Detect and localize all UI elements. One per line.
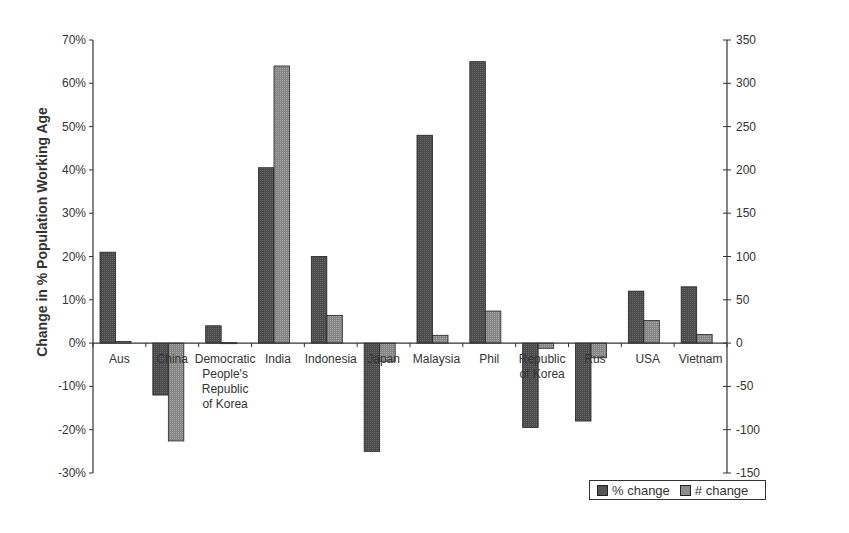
legend-item-pct: % change bbox=[597, 483, 670, 498]
category-label: of Korea bbox=[202, 397, 248, 411]
bar-pct-change bbox=[417, 135, 433, 343]
bar-pct-change bbox=[206, 326, 222, 343]
category-label: Republic bbox=[519, 352, 566, 366]
legend-swatch-pct bbox=[597, 485, 608, 496]
right-tick-label: -100 bbox=[736, 423, 760, 437]
right-tick-label: 200 bbox=[736, 163, 756, 177]
category-label: Republic bbox=[202, 382, 249, 396]
left-tick-label: 50% bbox=[62, 120, 86, 134]
category-label: People's bbox=[202, 367, 248, 381]
category-label: Democratic bbox=[195, 352, 256, 366]
legend-label-num: # change bbox=[695, 483, 749, 498]
left-tick-label: 20% bbox=[62, 250, 86, 264]
bar-num-change bbox=[697, 334, 713, 343]
category-label: Japan bbox=[367, 352, 400, 366]
y-axis-title: Change in % Population Working Age bbox=[34, 107, 50, 357]
right-tick-label: 0 bbox=[736, 336, 743, 350]
bar-chart: 70%60%50%40%30%20%10%0%-10%-20%-30% 3503… bbox=[0, 0, 849, 533]
category-label: Malaysia bbox=[413, 352, 461, 366]
right-tick-label: 250 bbox=[736, 120, 756, 134]
left-tick-label: 30% bbox=[62, 206, 86, 220]
left-y-axis: 70%60%50%40%30%20%10%0%-10%-20%-30% bbox=[58, 33, 93, 480]
category-label: of Korea bbox=[519, 367, 565, 381]
legend-label-pct: % change bbox=[612, 483, 670, 498]
left-tick-label: -10% bbox=[58, 379, 86, 393]
bar-pct-change bbox=[470, 62, 486, 343]
category-label: Rus bbox=[584, 352, 605, 366]
right-tick-label: 150 bbox=[736, 206, 756, 220]
bar-pct-change bbox=[100, 252, 116, 343]
bar-pct-change bbox=[311, 257, 327, 344]
bar-num-change bbox=[644, 321, 660, 344]
right-tick-label: 350 bbox=[736, 33, 756, 47]
legend: % change # change bbox=[589, 480, 766, 500]
bars bbox=[100, 62, 712, 452]
left-tick-label: 70% bbox=[62, 33, 86, 47]
left-tick-label: 40% bbox=[62, 163, 86, 177]
left-tick-label: -30% bbox=[58, 466, 86, 480]
x-axis: AusChinaDemocraticPeople'sRepublicof Kor… bbox=[93, 343, 727, 411]
left-tick-label: 10% bbox=[62, 293, 86, 307]
left-tick-label: -20% bbox=[58, 423, 86, 437]
bar-num-change bbox=[327, 315, 343, 343]
category-label: Indonesia bbox=[305, 352, 357, 366]
legend-item-num: # change bbox=[680, 483, 749, 498]
bar-num-change bbox=[485, 311, 501, 343]
bar-pct-change bbox=[259, 168, 275, 343]
category-label: USA bbox=[635, 352, 660, 366]
category-label: China bbox=[157, 352, 189, 366]
bar-pct-change bbox=[681, 287, 697, 343]
right-tick-label: -50 bbox=[736, 379, 754, 393]
bar-num-change bbox=[538, 343, 554, 348]
left-tick-label: 0% bbox=[69, 336, 87, 350]
legend-swatch-num bbox=[680, 485, 691, 496]
right-tick-label: 50 bbox=[736, 293, 750, 307]
category-label: Phil bbox=[479, 352, 499, 366]
bar-num-change bbox=[274, 66, 290, 343]
left-tick-label: 60% bbox=[62, 76, 86, 90]
bar-pct-change bbox=[628, 291, 644, 343]
category-label: Aus bbox=[109, 352, 130, 366]
category-label: Vietnam bbox=[679, 352, 723, 366]
category-label: India bbox=[265, 352, 291, 366]
bar-pct-change bbox=[153, 343, 169, 395]
right-tick-label: 300 bbox=[736, 76, 756, 90]
right-y-axis: 350300250200150100500-50-100-150 bbox=[723, 33, 760, 480]
right-tick-label: -150 bbox=[736, 466, 760, 480]
bar-num-change bbox=[433, 335, 449, 343]
right-tick-label: 100 bbox=[736, 250, 756, 264]
